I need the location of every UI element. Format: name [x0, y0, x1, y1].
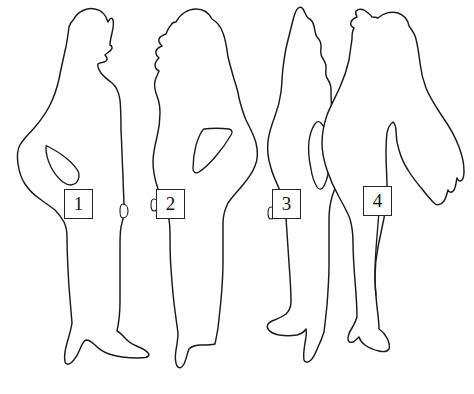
figure-2-label-box: 2 [156, 189, 185, 219]
figure-4-group [322, 9, 464, 351]
figure-canvas: 1 2 3 4 [0, 0, 474, 394]
figure-1-silhouette [17, 8, 149, 364]
figure-1-label-box: 1 [64, 189, 93, 219]
figure-4-label-box: 4 [363, 186, 392, 216]
figure-4-silhouette [322, 9, 464, 351]
figure-1-group [17, 8, 149, 364]
figure-1-hand-notch [120, 204, 128, 218]
figure-3-label-box: 3 [272, 189, 301, 219]
